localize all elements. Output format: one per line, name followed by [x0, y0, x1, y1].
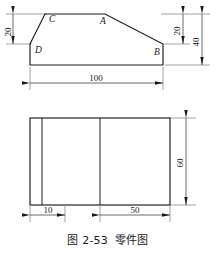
dimension-value-right-20: 20	[172, 26, 182, 36]
dimension-value-60: 60	[175, 158, 185, 168]
vertex-label-c: C	[49, 14, 56, 24]
technical-drawing: C A D B 20 20 40 100	[0, 0, 216, 255]
vertex-label-d: D	[34, 45, 42, 55]
figure-caption: 图 2-53零件图	[0, 231, 216, 247]
dimension-value-left-20: 20	[3, 27, 13, 37]
figure-caption-number: 图 2-53	[67, 234, 108, 247]
top-view-group: 10 50 60	[30, 118, 196, 222]
figure-page: C A D B 20 20 40 100	[0, 0, 216, 255]
dimension-overall-length: 100	[30, 73, 163, 83]
dimension-depth-60: 60	[175, 118, 186, 205]
dimension-right-upper-height: 20	[172, 14, 183, 44]
dimension-value-50: 50	[131, 205, 141, 215]
dimension-width-10: 10	[30, 205, 65, 215]
front-view-group: C A D B 20 20 40 100	[3, 14, 210, 90]
figure-caption-title: 零件图	[115, 234, 149, 247]
dimension-value-40: 40	[191, 37, 201, 47]
dimension-value-100: 100	[89, 73, 103, 83]
dimension-value-10: 10	[44, 205, 54, 215]
top-view-extension-lines	[30, 118, 196, 222]
vertex-label-b: B	[154, 47, 160, 57]
dimension-right-total-height: 40	[191, 14, 202, 65]
vertex-label-a: A	[99, 16, 106, 26]
dimension-left-height: 20	[3, 14, 13, 44]
dimension-width-50: 50	[100, 205, 170, 215]
